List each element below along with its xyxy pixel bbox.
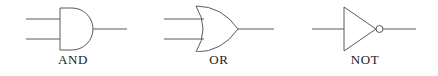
logic-gates-diagram: AND OR	[0, 0, 438, 76]
or-gate-label: OR	[146, 52, 292, 68]
and-gate-symbol	[0, 0, 146, 52]
and-gate-label: AND	[0, 52, 146, 68]
or-gate-body	[196, 6, 238, 52]
and-gate-body	[60, 8, 93, 50]
gate-cell-not: NOT	[292, 0, 438, 76]
gate-cell-or: OR	[146, 0, 292, 76]
not-gate-body	[344, 7, 376, 51]
gate-cell-and: AND	[0, 0, 146, 76]
not-inversion-bubble	[376, 26, 383, 33]
not-gate-label: NOT	[292, 52, 438, 68]
not-gate-symbol	[292, 0, 438, 52]
or-gate-symbol	[146, 0, 292, 52]
